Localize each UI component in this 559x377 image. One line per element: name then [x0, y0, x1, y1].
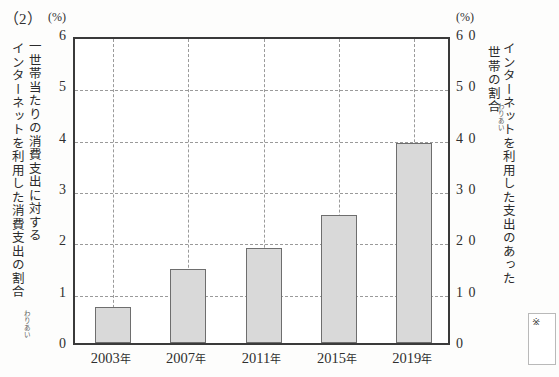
x-axis-tick-2015: 2015年 — [297, 350, 377, 367]
left-axis-tick-4: 4 — [44, 131, 66, 147]
vertical-gridline — [113, 39, 114, 343]
left-axis-title-column-a: 一世帯当たりの消費支出に対する — [26, 40, 39, 243]
chart-page: （2） (%) (%) 0123456 01 02 03 04 05 06 0 … — [0, 0, 559, 377]
right-axis-tick-60: 6 0 — [456, 28, 486, 44]
right-axis-tick-30: 3 0 — [456, 182, 486, 198]
right-axis-tick-50: 5 0 — [456, 79, 486, 95]
right-axis-tick-0: 0 — [456, 336, 486, 352]
left-axis-title-column-b: インターネットを利用した消費支出の割合 — [9, 42, 22, 299]
right-axis-unit-label: (%) — [456, 10, 474, 25]
left-axis-tick-6: 6 — [44, 28, 66, 44]
plot-area — [73, 37, 450, 345]
right-axis-title-column-a: インターネットを利用した支出のあった — [500, 42, 513, 285]
left-axis-tick-3: 3 — [44, 182, 66, 198]
left-axis-title-ruby: わりあい — [22, 310, 29, 338]
question-number: （2） — [4, 7, 42, 28]
reference-mark-box: ※ — [528, 313, 556, 365]
left-axis-tick-5: 5 — [44, 79, 66, 95]
reference-mark-icon: ※ — [532, 316, 540, 327]
horizontal-gridline — [75, 90, 448, 91]
right-axis-title-ruby: わりあい — [496, 103, 503, 131]
left-axis-unit-label: (%) — [48, 10, 66, 25]
left-axis-tick-0: 0 — [44, 336, 66, 352]
horizontal-gridline — [75, 193, 448, 194]
bar-2019年 — [396, 143, 432, 343]
horizontal-gridline — [75, 142, 448, 143]
x-axis-tick-2003: 2003年 — [71, 350, 151, 367]
left-axis-tick-1: 1 — [44, 285, 66, 301]
right-axis-tick-40: 4 0 — [456, 131, 486, 147]
x-axis-tick-2007: 2007年 — [146, 350, 226, 367]
left-axis-tick-2: 2 — [44, 233, 66, 249]
bar-2011年 — [246, 248, 282, 343]
bar-2015年 — [321, 215, 357, 343]
bar-2007年 — [170, 269, 206, 343]
horizontal-gridline — [75, 244, 448, 245]
bar-2003年 — [95, 307, 131, 343]
right-axis-tick-10: 1 0 — [456, 285, 486, 301]
x-axis-tick-2019: 2019年 — [372, 350, 452, 367]
right-axis-tick-20: 2 0 — [456, 233, 486, 249]
x-axis-tick-2011: 2011年 — [222, 350, 302, 367]
